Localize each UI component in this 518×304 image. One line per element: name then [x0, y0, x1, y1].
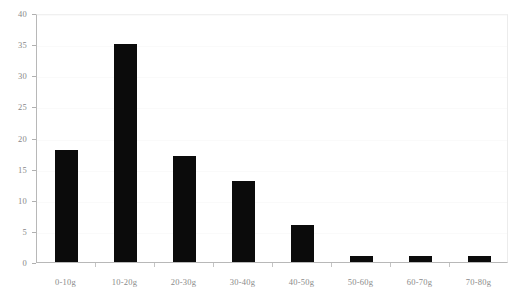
y-tick-label: 20 [18, 134, 27, 144]
gridline [37, 140, 507, 141]
y-tick-label: 40 [18, 9, 27, 19]
gridline [37, 15, 507, 16]
bar [468, 256, 491, 262]
y-tick-mark [32, 107, 36, 108]
plot-area [36, 14, 508, 263]
y-tick-label: 25 [18, 102, 27, 112]
bar [409, 256, 432, 262]
gridline [37, 171, 507, 172]
y-tick-label: 5 [23, 227, 27, 237]
x-tick-label: 60-70g [407, 277, 432, 287]
bar [114, 44, 137, 262]
x-tick-label: 30-40g [230, 277, 255, 287]
x-tick-label: 0-10g [55, 277, 76, 287]
y-tick-mark [32, 76, 36, 77]
gridline [37, 202, 507, 203]
y-tick-label: 0 [23, 258, 27, 268]
x-tick-mark [449, 263, 450, 267]
bar [55, 150, 78, 262]
y-tick-label: 30 [18, 71, 27, 81]
x-tick-label: 70-80g [466, 277, 491, 287]
y-tick-mark [32, 139, 36, 140]
x-tick-label: 50-60g [348, 277, 373, 287]
y-tick-mark [32, 45, 36, 46]
y-tick-mark [32, 170, 36, 171]
y-tick-mark [32, 201, 36, 202]
x-tick-label: 20-30g [171, 277, 196, 287]
x-tick-mark [272, 263, 273, 267]
x-tick-mark [390, 263, 391, 267]
x-tick-mark [95, 263, 96, 267]
gridline [37, 233, 507, 234]
x-tick-mark [331, 263, 332, 267]
y-axis: 0510152025303540 [0, 0, 36, 304]
y-tick-label: 15 [18, 165, 27, 175]
y-tick-label: 10 [18, 196, 27, 206]
gridline [37, 108, 507, 109]
bar [173, 156, 196, 262]
bar [350, 256, 373, 262]
bar [291, 225, 314, 262]
x-tick-mark [154, 263, 155, 267]
x-axis: 0-10g10-20g20-30g30-40g40-50g50-60g60-70… [36, 263, 508, 304]
bar-chart: 0510152025303540 0-10g10-20g20-30g30-40g… [0, 0, 518, 304]
gridline [37, 77, 507, 78]
y-tick-label: 35 [18, 40, 27, 50]
bar [232, 181, 255, 262]
y-tick-mark [32, 232, 36, 233]
x-tick-label: 10-20g [112, 277, 137, 287]
x-tick-mark [213, 263, 214, 267]
x-tick-label: 40-50g [289, 277, 314, 287]
y-tick-mark [32, 14, 36, 15]
gridline [37, 46, 507, 47]
